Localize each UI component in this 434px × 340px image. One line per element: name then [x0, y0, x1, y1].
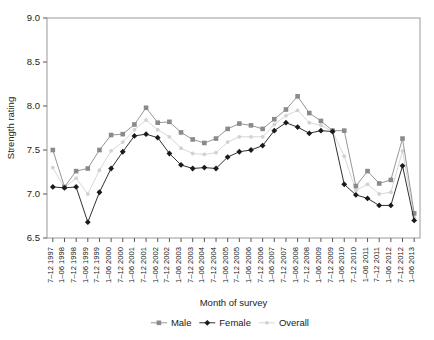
data-point-marker	[354, 184, 359, 189]
data-point-marker	[319, 123, 323, 127]
x-axis-tick-label: 7–12 2007	[279, 247, 288, 283]
chart-container: 6.57.07.58.08.59.0Strength rating7–12 19…	[0, 0, 434, 340]
data-point-marker	[306, 130, 312, 136]
data-point-marker	[97, 148, 102, 153]
x-axis-tick-label: 7–12 2006	[256, 247, 265, 283]
data-point-marker	[388, 203, 394, 209]
x-axis-tick-label: 7–12 2005	[232, 247, 241, 283]
y-axis-title: Strength rating	[5, 97, 16, 159]
data-point-marker	[85, 219, 91, 225]
data-point-marker	[51, 148, 56, 153]
data-point-marker	[295, 94, 300, 99]
strength-rating-line-chart: 6.57.07.58.08.59.0Strength rating7–12 19…	[0, 0, 434, 340]
data-point-marker	[202, 141, 207, 146]
plot-frame	[47, 18, 420, 238]
data-point-marker	[377, 181, 382, 186]
legend-item-male[interactable]: Male	[151, 317, 192, 328]
data-point-marker	[272, 117, 277, 122]
data-point-marker	[248, 147, 254, 153]
x-axis-tick-label: 7–12 1998	[69, 247, 78, 283]
x-axis-tick-label: 1–06 1998	[57, 247, 66, 283]
legend-label: Overall	[279, 317, 309, 328]
x-axis-tick-label: 7–12 2011	[372, 247, 381, 282]
x-axis-tick-label: 7–12 2010	[349, 247, 358, 283]
data-point-marker	[190, 166, 196, 172]
x-axis-tick-label: 1–06 2005	[221, 247, 230, 283]
data-point-marker	[201, 165, 207, 171]
data-point-marker	[155, 120, 160, 125]
data-point-marker	[144, 105, 149, 110]
data-point-marker	[376, 203, 382, 209]
data-point-marker	[411, 218, 417, 224]
data-point-marker	[249, 123, 254, 128]
data-point-marker	[214, 151, 218, 155]
x-axis-tick-label: 7–12 2000	[116, 247, 125, 283]
y-axis-tick-label: 8.0	[27, 100, 40, 111]
data-point-marker	[354, 189, 358, 193]
x-axis-tick-label: 7–12 1999	[92, 247, 101, 283]
data-point-marker	[204, 320, 210, 326]
series-female	[50, 120, 417, 225]
x-axis-tick-label: 1–06 2010	[337, 247, 346, 283]
data-point-marker	[265, 321, 269, 325]
legend-item-female[interactable]: Female	[199, 317, 251, 328]
data-point-marker	[284, 107, 289, 112]
data-point-marker	[86, 192, 90, 196]
data-point-marker	[97, 189, 103, 195]
data-point-marker	[296, 109, 300, 113]
x-axis-tick-label: 7–12 2002	[162, 247, 171, 283]
data-point-marker	[121, 140, 125, 144]
data-point-marker	[50, 184, 56, 190]
x-axis-tick-label: 7–12 2004	[209, 247, 218, 283]
data-point-marker	[190, 137, 195, 142]
legend-label: Female	[219, 317, 251, 328]
data-point-marker	[108, 166, 114, 172]
data-point-marker	[377, 192, 381, 196]
series-line	[53, 123, 414, 222]
data-point-marker	[261, 135, 265, 139]
data-point-marker	[167, 120, 172, 125]
data-point-marker	[144, 118, 148, 122]
x-axis-tick-label: 1–06 2002	[151, 247, 160, 283]
x-axis-tick-label: 7–12 2003	[186, 247, 195, 283]
data-point-marker	[342, 128, 347, 133]
data-point-marker	[318, 128, 324, 134]
data-point-marker	[307, 121, 311, 125]
data-point-marker	[400, 136, 405, 141]
x-axis-tick-label: 7–12 1997	[46, 247, 55, 283]
x-axis-tick-label: 1–06 2013	[407, 247, 416, 283]
series-overall	[51, 109, 416, 219]
x-axis-tick-label: 1–06 2004	[197, 247, 206, 283]
data-point-marker	[51, 166, 55, 170]
data-point-marker	[167, 135, 171, 139]
data-point-marker	[109, 149, 113, 153]
data-point-marker	[283, 120, 289, 126]
data-point-marker	[132, 122, 137, 127]
data-point-marker	[85, 166, 90, 171]
data-point-marker	[342, 154, 346, 158]
data-point-marker	[202, 153, 206, 157]
x-axis-tick-label: 1–06 2008	[291, 247, 300, 283]
data-point-marker	[74, 169, 79, 174]
x-axis-tick-label: 7–12 2009	[326, 247, 335, 283]
data-point-marker	[366, 182, 370, 186]
data-point-marker	[307, 111, 312, 116]
data-point-marker	[179, 130, 184, 135]
legend-item-overall[interactable]: Overall	[259, 317, 309, 328]
x-axis-tick-label: 1–06 2012	[384, 247, 393, 283]
data-point-marker	[389, 178, 394, 183]
data-point-marker	[249, 135, 253, 139]
y-axis-tick-label: 8.5	[27, 56, 40, 67]
data-point-marker	[120, 132, 125, 137]
data-point-marker	[237, 121, 242, 126]
data-point-marker	[295, 124, 301, 130]
data-point-marker	[365, 196, 371, 202]
x-axis-tick-label: 1–06 2003	[174, 247, 183, 283]
data-point-marker	[73, 184, 79, 190]
data-point-marker	[365, 169, 370, 174]
x-axis-tick-label: 1–06 1999	[81, 247, 90, 283]
y-axis-tick-label: 9.0	[27, 12, 40, 23]
x-axis-title: Month of survey	[200, 297, 268, 308]
data-point-marker	[236, 149, 242, 155]
x-axis-tick-label: 7–12 2012	[396, 247, 405, 283]
